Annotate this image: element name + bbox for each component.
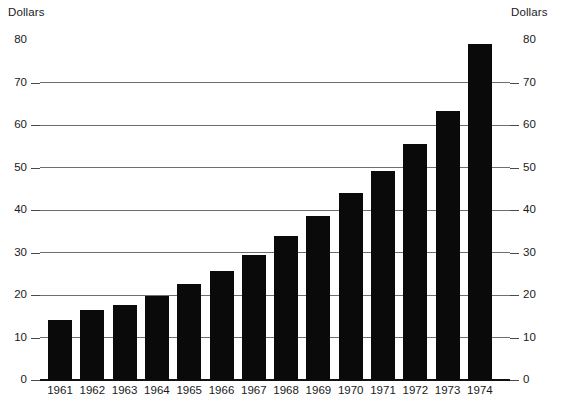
- y-tick-mark-right: [510, 125, 519, 126]
- y-tick-mark-right: [510, 380, 519, 381]
- y-tick-mark-right: [510, 338, 519, 339]
- y-tick-label-right: 40: [523, 204, 563, 216]
- bar: [210, 271, 234, 380]
- y-tick-mark-right: [510, 168, 519, 169]
- bar: [339, 193, 363, 380]
- y-tick-mark-left: [31, 210, 40, 211]
- bar: [274, 236, 298, 380]
- bar: [48, 320, 72, 380]
- left-axis-unit-label: Dollars: [8, 6, 45, 18]
- y-tick-mark-left: [31, 295, 40, 296]
- y-tick-label-left: 60: [0, 119, 27, 131]
- bar: [436, 111, 460, 380]
- y-tick-label-right: 60: [523, 119, 563, 131]
- y-tick-mark-right: [510, 83, 519, 84]
- y-tick-label-left: 0: [0, 374, 27, 386]
- y-tick-label-left: 50: [0, 162, 27, 174]
- y-tick-label-right: 70: [523, 77, 563, 89]
- y-tick-mark-left: [31, 125, 40, 126]
- y-tick-label-right: 80: [523, 34, 563, 46]
- bar: [371, 171, 395, 380]
- bar-chart: Dollars Dollars 01020304050607080 010203…: [0, 0, 565, 416]
- y-tick-mark-right: [510, 295, 519, 296]
- y-tick-label-right: 0: [523, 374, 563, 386]
- y-tick-label-left: 80: [0, 34, 27, 46]
- y-tick-label-right: 20: [523, 289, 563, 301]
- bar: [468, 44, 492, 380]
- bar: [145, 296, 169, 380]
- y-tick-mark-right: [510, 210, 519, 211]
- bar: [177, 284, 201, 380]
- y-tick-label-left: 40: [0, 204, 27, 216]
- bar-series: [40, 40, 510, 380]
- y-tick-label-left: 20: [0, 289, 27, 301]
- y-tick-label-right: 30: [523, 247, 563, 259]
- y-tick-mark-left: [31, 168, 40, 169]
- y-tick-mark-left: [31, 380, 40, 381]
- y-tick-mark-left: [31, 253, 40, 254]
- y-tick-mark-right: [510, 253, 519, 254]
- y-tick-label-left: 70: [0, 77, 27, 89]
- bar: [242, 255, 266, 380]
- bar: [80, 310, 104, 380]
- x-axis-tick-labels: 1961196219631964196519661967196819691970…: [40, 384, 510, 404]
- y-tick-label-left: 10: [0, 332, 27, 344]
- y-tick-label-left: 30: [0, 247, 27, 259]
- y-tick-mark-left: [31, 83, 40, 84]
- bar: [113, 305, 137, 380]
- bar: [306, 216, 330, 380]
- plot-area: 01020304050607080 01020304050607080: [40, 40, 510, 380]
- right-axis-unit-label: Dollars: [511, 6, 548, 18]
- bar: [403, 144, 427, 380]
- y-tick-label-right: 10: [523, 332, 563, 344]
- y-tick-mark-left: [31, 338, 40, 339]
- x-tick-label: 1974: [458, 384, 502, 396]
- y-tick-label-right: 50: [523, 162, 563, 174]
